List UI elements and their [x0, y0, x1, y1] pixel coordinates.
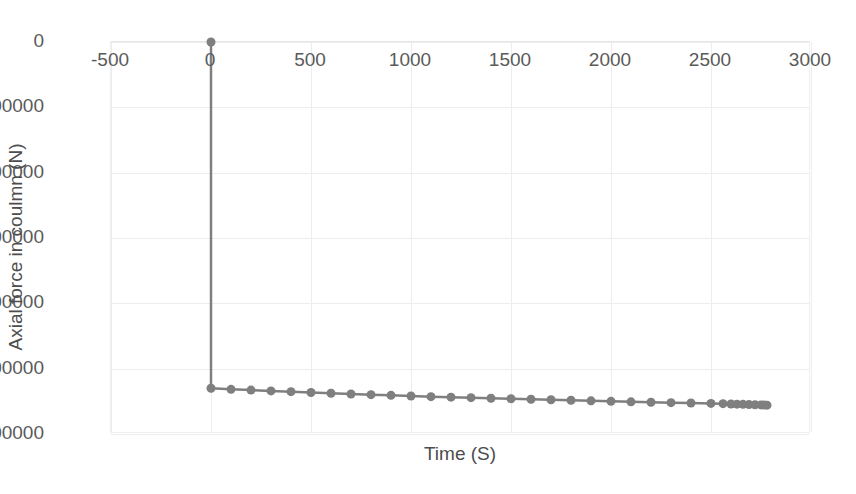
gridline-horizontal — [111, 434, 809, 435]
x-tick-label: 2000 — [589, 49, 631, 71]
x-tick-label: -500 — [91, 49, 129, 71]
plot-area — [110, 41, 810, 433]
data-point-marker — [327, 389, 336, 398]
x-tick-label: 1000 — [389, 49, 431, 71]
data-point-marker — [687, 399, 696, 408]
x-tick-label: 1500 — [489, 49, 531, 71]
data-point-marker — [587, 396, 596, 405]
data-point-marker — [427, 392, 436, 401]
data-point-marker — [467, 393, 476, 402]
y-axis-title: Axial force in coulmn (N) — [5, 144, 27, 351]
x-tick-label: 3000 — [789, 49, 831, 71]
data-point-marker — [267, 386, 276, 395]
data-point-marker — [207, 38, 216, 47]
data-point-marker — [207, 384, 216, 393]
data-point-marker — [667, 398, 676, 407]
data-point-marker — [707, 399, 716, 408]
x-tick-label: 500 — [294, 49, 326, 71]
data-point-marker — [247, 386, 256, 395]
x-tick-label: 2500 — [689, 49, 731, 71]
y-tick-label: -2500000 — [0, 357, 44, 379]
data-point-marker — [367, 390, 376, 399]
data-point-marker — [347, 390, 356, 399]
series-line — [211, 42, 767, 405]
data-point-marker — [447, 393, 456, 402]
gridline-vertical — [811, 42, 812, 432]
data-series-layer — [111, 42, 811, 434]
data-point-marker — [387, 391, 396, 400]
data-point-marker — [487, 394, 496, 403]
axial-force-time-chart: -500050010001500200025003000 0-500000-10… — [0, 0, 856, 494]
data-point-marker — [719, 399, 728, 408]
data-point-marker — [307, 388, 316, 397]
x-tick-label: 0 — [205, 49, 216, 71]
data-point-marker — [647, 398, 656, 407]
data-point-marker — [763, 401, 772, 410]
data-point-marker — [507, 394, 516, 403]
y-tick-label: -3000000 — [0, 422, 44, 444]
data-point-marker — [627, 397, 636, 406]
data-point-marker — [607, 397, 616, 406]
data-point-marker — [407, 391, 416, 400]
data-point-marker — [547, 395, 556, 404]
data-point-marker — [287, 387, 296, 396]
data-point-marker — [227, 385, 236, 394]
y-tick-label: 0 — [33, 30, 44, 52]
y-tick-label: -500000 — [0, 95, 44, 117]
data-point-marker — [567, 396, 576, 405]
data-point-marker — [527, 395, 536, 404]
series-markers — [207, 38, 772, 410]
x-axis-title: Time (S) — [424, 443, 496, 465]
